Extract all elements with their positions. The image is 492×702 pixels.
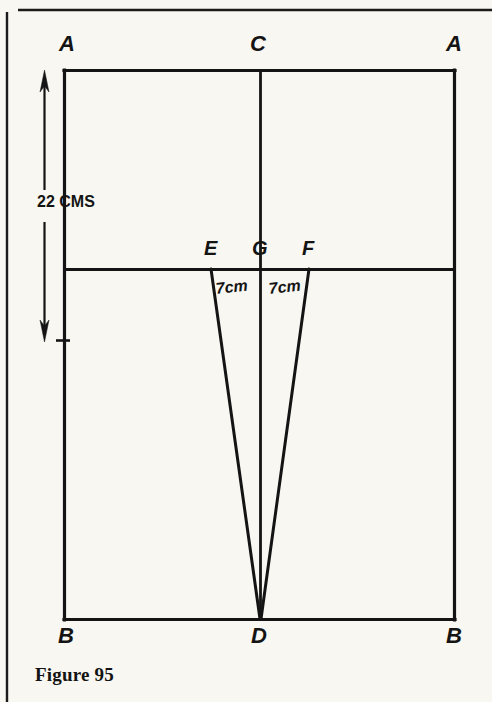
vertex-label-c: C [250,33,266,55]
dimension-label-height: 22 CMS [37,194,95,210]
segment-label-left-7cm: 7cm [215,278,249,297]
dart-line-ed [211,269,260,619]
vertex-label-b-bottom-right: B [446,625,462,647]
figure-page: A C A E G F B D B 22 CMS 7cm 7cm Figure … [0,0,492,702]
vertex-label-a-top-right: A [446,33,462,55]
vertex-label-g: G [252,238,268,258]
vertex-label-e: E [204,238,217,258]
vertex-label-f: F [302,238,314,258]
segment-label-right-7cm: 7cm [268,278,302,297]
dart-line-fd [261,269,309,619]
vertex-label-a-top-left: A [59,33,75,55]
vertex-label-d: D [251,625,267,647]
page-border-rules [7,10,492,702]
figure-caption: Figure 95 [35,664,114,686]
figure-drawing [0,0,492,702]
vertex-label-b-bottom-left: B [58,625,74,647]
